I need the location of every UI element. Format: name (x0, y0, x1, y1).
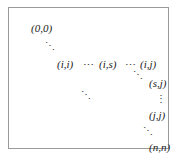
index-label-origin: (0,0) (31, 23, 52, 34)
index-label-col-s: (s,j) (149, 78, 166, 89)
index-label-col-j: (j,j) (149, 110, 165, 121)
index-label-row-middle: (i,s) (99, 59, 116, 70)
figure-frame: (0,0) ⋱ (i,i) ⋯ (i,s) ⋯ (i,j) ⋱ (s,j) ⋱ … (8, 7, 169, 149)
index-label-row-start: (i,i) (57, 59, 73, 70)
diagonal-ellipsis-origin-to-row: ⋱ (45, 41, 55, 51)
horizontal-ellipsis-left: ⋯ (83, 60, 94, 71)
diagonal-ellipsis-center: ⋱ (81, 90, 91, 100)
diagonal-ellipsis-row-end-to-col-s: ⋱ (133, 70, 143, 80)
diagonal-ellipsis-col-j-to-terminal: ⋱ (143, 126, 153, 136)
vertical-ellipsis-col: ⋮ (156, 94, 166, 104)
index-label-terminal: (n,n) (149, 142, 170, 153)
